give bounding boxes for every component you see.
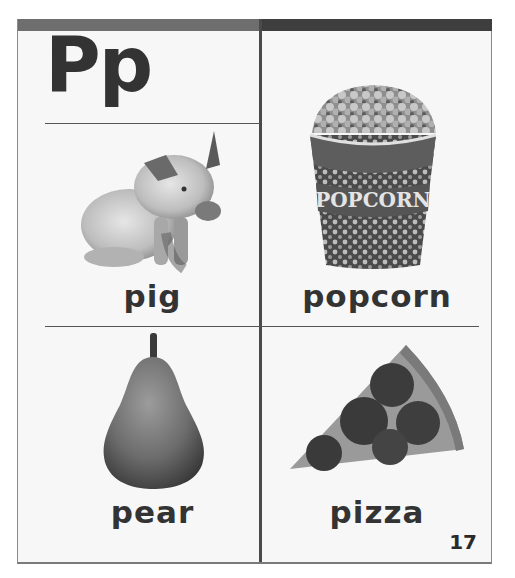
pig-image (74, 125, 226, 273)
pizza-image (288, 341, 468, 473)
word-label-popcorn: popcorn (262, 281, 492, 312)
pear-icon (98, 331, 208, 489)
letter-heading: Pp (45, 27, 151, 103)
word-label-pizza: pizza (262, 497, 492, 528)
top-color-bar-right (260, 19, 492, 31)
alphabet-page: Pp pig (17, 19, 492, 564)
word-label-pig: pig (45, 281, 260, 312)
heading-underline (45, 123, 260, 124)
pear-image (98, 331, 208, 489)
middle-divider (45, 326, 479, 327)
popcorn-image: POPCORN (302, 79, 444, 271)
popcorn-icon: POPCORN (302, 79, 444, 271)
pizza-icon (288, 341, 468, 473)
svg-text:POPCORN: POPCORN (315, 188, 431, 212)
page-number: 17 (449, 530, 477, 554)
pig-icon (74, 125, 226, 273)
word-label-pear: pear (45, 497, 260, 528)
